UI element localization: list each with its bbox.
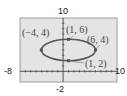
point-label-left: (−4, 4) bbox=[22, 28, 49, 38]
y-min-label: -2 bbox=[56, 85, 64, 94]
x-min-label: -8 bbox=[4, 67, 12, 76]
x-max-label: 10 bbox=[115, 67, 125, 76]
point-label-right: (6, 4) bbox=[87, 35, 109, 45]
point-label-bottom: (1, 2) bbox=[85, 59, 107, 69]
point-label-top: (1, 6) bbox=[66, 25, 88, 35]
y-max-label: 10 bbox=[58, 7, 68, 16]
